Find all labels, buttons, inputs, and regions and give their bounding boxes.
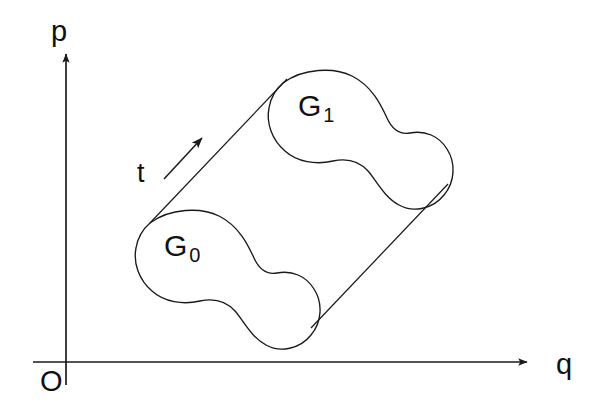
region-G0-group [135, 210, 320, 349]
region-G1-label-base: G [298, 89, 321, 122]
region-G1-label: G1 [298, 91, 332, 121]
region-G1-label-subscript: 1 [323, 104, 334, 126]
region-G0-label-base: G [164, 229, 187, 262]
region-G1-group [268, 70, 453, 209]
flow-direction-arrow-group [164, 138, 202, 179]
region-G0-label-subscript: 0 [189, 244, 200, 266]
p-axis-label: p [51, 17, 67, 46]
tube-line-left [150, 79, 287, 223]
axes-group [33, 54, 527, 385]
tube-line-right [311, 184, 448, 328]
q-axis-label: q [556, 350, 572, 379]
region-G1-outline [268, 70, 453, 209]
diagram-canvas [0, 0, 600, 415]
region-G0-outline [135, 210, 320, 349]
origin-label: O [40, 367, 63, 396]
phase-space-diagram: p q O t G0 G1 [0, 0, 600, 415]
flow-direction-arrow [164, 138, 202, 179]
flow-parameter-label: t [137, 160, 145, 187]
region-G0-label: G0 [164, 231, 198, 261]
